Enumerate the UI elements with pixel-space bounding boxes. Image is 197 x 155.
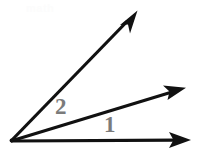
baseline-ray-shaft [11,140,176,141]
watermark-text: math [26,1,86,15]
vertex-point [10,139,14,143]
angle-diagram-canvas [0,0,197,155]
angle-label-2: 2 [55,95,67,118]
angle-diagram-figure: math 1 2 [0,0,197,155]
angle-label-1: 1 [104,113,116,136]
upper-ray-arrowhead [120,11,138,34]
